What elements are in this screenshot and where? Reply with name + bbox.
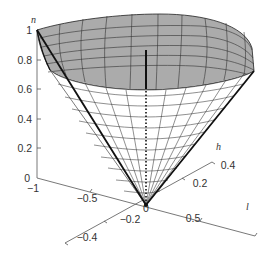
n-tick: 1 [26, 24, 32, 36]
l-tick: −0.5 [77, 192, 98, 204]
n-tick: 0.4 [17, 113, 32, 125]
l-tick: 0.5 [186, 212, 201, 224]
surface-plot: n 1 0.8 0.6 0.4 0.2 0 −1 −0.5 0 0.5 l 0.… [0, 0, 267, 253]
n-tick: 0.2 [17, 142, 32, 154]
h-tick: 0.4 [221, 159, 236, 171]
n-tick: 0.8 [17, 54, 32, 66]
n-axis: n 1 0.8 0.6 0.4 0.2 0 [17, 14, 41, 184]
n-tick: 0.6 [17, 83, 32, 95]
h-tick: −0.4 [77, 231, 98, 243]
l-axis-label: l [246, 201, 249, 212]
l-tick: −1 [27, 182, 39, 194]
h-axis-label: h [216, 141, 221, 152]
h-tick: −0.2 [120, 213, 141, 225]
h-tick: 0.2 [193, 177, 208, 189]
apex-point [144, 203, 148, 207]
